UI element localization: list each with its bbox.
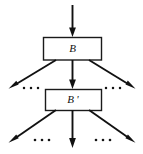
ellipsis-upper-right [105,87,122,90]
ellipsis-lower-left [34,139,51,142]
b-left-branch-arrow [9,60,57,89]
input-arrow [69,5,76,37]
branching-flow-diagram: B B ' [0,0,143,154]
b-center-branch-arrow [69,60,76,89]
node-b-label: B [69,42,76,54]
b-right-branch-arrow [89,60,136,89]
b-prime-right-branch-arrow [89,110,136,143]
node-b-prime-label: B ' [67,93,79,105]
ellipsis-lower-right [95,139,112,142]
node-b-prime: B ' [46,90,102,111]
b-prime-left-branch-arrow [9,110,57,143]
diagram-figure: B B ' [0,0,143,154]
ellipsis-upper-left [23,87,40,90]
b-prime-center-branch-arrow [69,110,76,148]
node-b: B [44,38,102,61]
